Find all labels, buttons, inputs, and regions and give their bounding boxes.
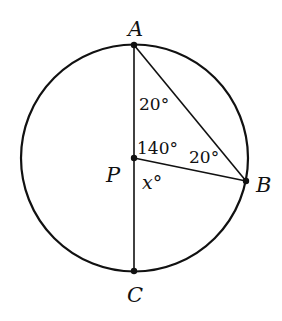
point-B-dot xyxy=(243,178,249,184)
angle-label-PAB: 20° xyxy=(139,94,169,114)
angle-label-APB: 140° xyxy=(137,138,178,158)
circle-diagram: A P B C 20° 140° 20° x° xyxy=(0,0,282,321)
label-P: P xyxy=(105,163,121,187)
label-B: B xyxy=(255,173,271,197)
label-C: C xyxy=(127,283,143,307)
angle-label-PBA: 20° xyxy=(189,147,219,167)
point-C-dot xyxy=(131,268,137,274)
point-A-dot xyxy=(131,42,137,48)
label-A: A xyxy=(126,17,143,41)
angle-label-BPC: x° xyxy=(142,171,162,193)
